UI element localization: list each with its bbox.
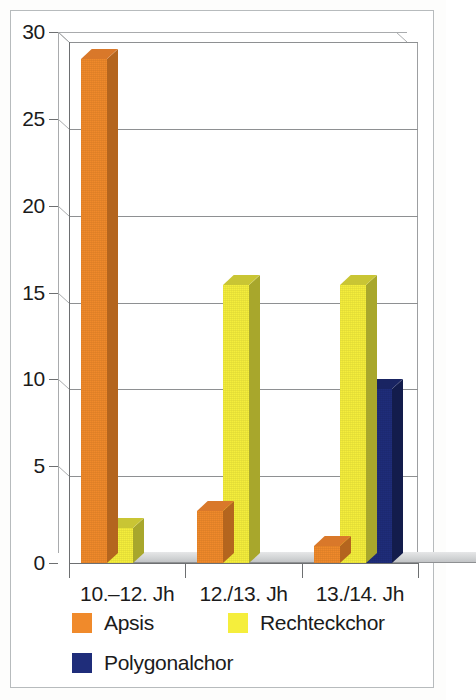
x-axis-tick-0 bbox=[69, 563, 70, 578]
y-axis-label-10: 10 bbox=[0, 368, 45, 389]
bar-apsis-1 bbox=[197, 511, 223, 563]
bar-apsis-0 bbox=[81, 59, 107, 563]
x-axis-tick-2 bbox=[302, 563, 303, 578]
bar-side-face bbox=[392, 379, 403, 563]
legend-swatch-rechteckchor bbox=[228, 613, 248, 633]
legend-swatch-apsis bbox=[72, 613, 92, 633]
bar-front-face bbox=[340, 285, 366, 563]
bar-rechteckchor-2 bbox=[340, 285, 366, 563]
y-axis-tick-15 bbox=[49, 293, 58, 294]
bar-print-grain bbox=[314, 546, 340, 563]
bar-side-face bbox=[223, 501, 234, 563]
y-axis-tick-0 bbox=[49, 563, 58, 564]
y-axis-label-0: 0 bbox=[0, 552, 45, 573]
legend-item-polygonalchor[interactable]: Polygonalchor bbox=[72, 652, 233, 674]
bar-print-grain bbox=[81, 59, 107, 563]
y-axis-label-20: 20 bbox=[0, 195, 45, 216]
x-axis-label-0: 10.–12. Jh bbox=[69, 582, 185, 605]
y-axis-tick-5 bbox=[49, 466, 58, 467]
y-axis-tick-30 bbox=[49, 32, 58, 33]
legend-item-rechteckchor[interactable]: Rechteckchor bbox=[228, 612, 385, 634]
plot-depth-top-edge bbox=[58, 32, 407, 33]
bar-apsis-2 bbox=[314, 546, 340, 563]
bar-front-face bbox=[81, 59, 107, 563]
y-axis-label-25: 25 bbox=[0, 108, 45, 129]
bar-print-grain bbox=[197, 511, 223, 563]
legend-swatch-polygonalchor bbox=[72, 653, 92, 673]
bar-side-face bbox=[249, 275, 260, 563]
y-axis-label-15: 15 bbox=[0, 282, 45, 303]
legend-item-apsis[interactable]: Apsis bbox=[72, 612, 154, 634]
gridline-y-25 bbox=[69, 129, 418, 130]
legend-label-rechteckchor: Rechteckchor bbox=[260, 612, 385, 634]
legend-label-apsis: Apsis bbox=[104, 612, 154, 634]
x-axis-tick-3 bbox=[418, 563, 419, 578]
y-axis-label-5: 5 bbox=[0, 455, 45, 476]
y-axis-tick-10 bbox=[49, 379, 58, 380]
x-axis-label-1: 12./13. Jh bbox=[185, 582, 301, 605]
y-axis-tick-25 bbox=[49, 119, 58, 120]
plot-floor-face bbox=[127, 552, 476, 563]
legend-label-polygonalchor: Polygonalchor bbox=[104, 652, 233, 674]
gridline-y-20 bbox=[69, 216, 418, 217]
x-axis-label-2: 13./14. Jh bbox=[302, 582, 418, 605]
y-axis-tick-20 bbox=[49, 206, 58, 207]
bar-side-face bbox=[107, 49, 118, 563]
y-axis-line bbox=[69, 42, 70, 563]
bar-front-face bbox=[314, 546, 340, 563]
x-axis-tick-1 bbox=[185, 563, 186, 578]
gridline-y-30 bbox=[69, 42, 418, 43]
y-axis-label-30: 30 bbox=[0, 21, 45, 42]
bar-front-face bbox=[197, 511, 223, 563]
bar-print-grain bbox=[340, 285, 366, 563]
bar-side-face bbox=[366, 275, 377, 563]
